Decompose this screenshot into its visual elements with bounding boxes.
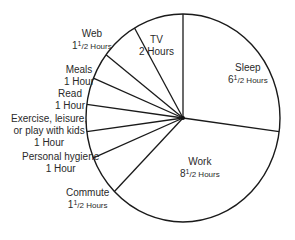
label-meals: Meals 1 Hour xyxy=(64,64,94,88)
label-web: Web 11/2 Hours xyxy=(72,28,112,53)
label-tv: TV 2 Hours xyxy=(139,34,174,58)
label-exercise: Exercise, leisure, or play with kids 1 H… xyxy=(11,113,87,149)
label-work: Work 81/2 Hours xyxy=(180,156,220,181)
pie-center xyxy=(181,116,185,120)
label-personal-hygiene: Personal hygiene 1 Hour xyxy=(22,151,99,175)
label-commute: Commute 11/2 Hours xyxy=(66,187,109,212)
label-sleep: Sleep 61/2 Hours xyxy=(228,62,268,87)
label-read: Read 1 Hour xyxy=(55,88,85,112)
